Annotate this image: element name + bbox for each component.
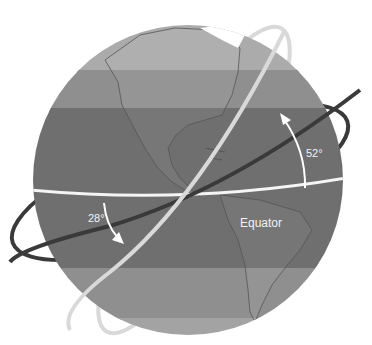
globe-orbit-diagram: 52° 28° Equator <box>0 0 372 345</box>
globe <box>0 0 372 345</box>
equator-label: Equator <box>240 216 282 230</box>
globe-svg <box>0 0 372 345</box>
angle-label-52: 52° <box>306 147 323 159</box>
angle-label-28: 28° <box>88 212 105 224</box>
